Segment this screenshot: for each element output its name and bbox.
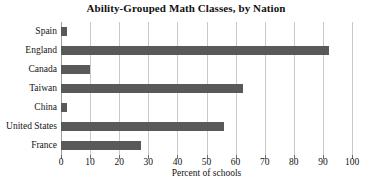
bar-row	[61, 98, 352, 117]
bar	[61, 141, 141, 150]
bar-row	[61, 136, 352, 155]
bar-row	[61, 117, 352, 136]
bar-row	[61, 60, 352, 79]
bar-chart-figure: Ability-Grouped Math Classes, by Nation …	[0, 0, 372, 182]
plot-area	[61, 22, 352, 155]
bar	[61, 27, 67, 36]
bar	[61, 65, 90, 74]
category-label: Canada	[0, 64, 57, 74]
bar	[61, 84, 243, 93]
bar-row	[61, 79, 352, 98]
category-label: China	[0, 102, 57, 112]
chart-title: Ability-Grouped Math Classes, by Nation	[0, 2, 372, 14]
x-axis-label: Percent of schools	[61, 168, 352, 178]
bar	[61, 122, 224, 131]
category-label: Spain	[0, 26, 57, 36]
bar	[61, 46, 329, 55]
bar-row	[61, 41, 352, 60]
category-label: France	[0, 140, 57, 150]
bar	[61, 103, 67, 112]
category-label: Taiwan	[0, 83, 57, 93]
gridline	[352, 22, 353, 155]
x-tick-label: 100	[332, 157, 372, 167]
bar-row	[61, 22, 352, 41]
category-label: England	[0, 45, 57, 55]
category-label: United States	[0, 121, 57, 131]
